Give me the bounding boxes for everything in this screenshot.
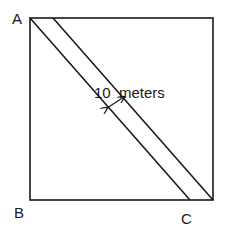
vertex-label-b: B [14, 204, 24, 221]
vertex-label-a: A [12, 10, 22, 27]
path-edge-upper [53, 18, 213, 200]
path-width-label: 10 meters [94, 84, 165, 101]
square-diagram: A B C 10 meters [0, 0, 228, 236]
path-edge-lower [30, 18, 190, 200]
square-outline [30, 18, 213, 200]
vertex-label-c: C [181, 210, 192, 227]
